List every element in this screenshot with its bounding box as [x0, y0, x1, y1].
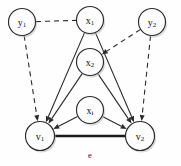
edge-y2-v2	[142, 36, 150, 115]
edge-y2-v2-arrowhead	[140, 115, 145, 121]
edge-xi-v2	[102, 116, 121, 126]
edge-y1-v1-arrowhead	[34, 115, 39, 121]
node-x1[interactable]: x1	[77, 7, 106, 36]
edge-y2-x2	[107, 30, 140, 52]
node-x2[interactable]: x2	[77, 49, 106, 78]
nodes-layer: y1x1y2x2xiv1v2	[9, 7, 168, 153]
graph-canvas: y1x1y2x2xiv1v2 e	[0, 0, 181, 166]
edge-xi-v1	[59, 116, 78, 126]
graph-diagram: y1x1y2x2xiv1v2 e	[0, 0, 181, 166]
edge-label-e: e	[88, 150, 92, 160]
node-xi[interactable]: xi	[77, 97, 106, 126]
node-v1[interactable]: v1	[26, 122, 57, 153]
node-y2[interactable]: y2	[139, 9, 168, 38]
node-y1[interactable]: y1	[9, 9, 38, 38]
edge-labels-layer: e	[88, 150, 92, 160]
edge-y1-v1	[24, 36, 37, 115]
node-v2[interactable]: v2	[126, 122, 157, 153]
edge-y1-x1	[36, 20, 76, 21]
